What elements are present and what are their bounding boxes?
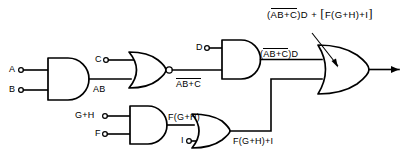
- input-label-a: A: [9, 65, 15, 74]
- wire-label-and3-output: F(G+H): [168, 113, 200, 122]
- or-gate-3[interactable]: [318, 45, 369, 94]
- final-expr-bracket-body: F(G+H)+I: [325, 10, 368, 20]
- and-gate-3[interactable]: [130, 106, 167, 144]
- input-terminal-gh[interactable]: [103, 114, 108, 119]
- final-expr-after-bar: )D: [297, 10, 308, 20]
- wire-label-and2-output: (AB+C)D: [260, 48, 298, 59]
- wire-label-nor1-output: AB+C: [176, 78, 201, 89]
- input-terminal-d[interactable]: [205, 46, 210, 51]
- nor-gate-1[interactable]: [129, 52, 166, 88]
- final-expr-bracket-close: ]: [368, 9, 373, 18]
- and-gate-1[interactable]: [48, 58, 89, 100]
- input-label-i: I: [181, 136, 184, 145]
- and-gate-2[interactable]: [222, 40, 260, 79]
- input-label-f: F: [95, 129, 101, 138]
- wire-label-ab: AB: [93, 85, 106, 94]
- input-label-c: C: [95, 55, 102, 64]
- final-expr-barred-term: AB+C: [271, 8, 298, 20]
- wire-label-nor1-output-bar: AB+C: [176, 78, 201, 89]
- wire-label-or2-output: F(G+H)+I: [233, 137, 273, 146]
- input-terminal-b[interactable]: [19, 88, 24, 93]
- final-expr-plus: +: [311, 10, 317, 20]
- and2-out-barred-term: AB+C: [263, 48, 288, 59]
- logic-circuit-diagram: (AB+C)D + [F(G+H)+I] A B C D G+H F I AB …: [0, 0, 415, 153]
- wire-or2-to-or3: [230, 79, 322, 131]
- final-output-expression: (AB+C)D + [F(G+H)+I]: [267, 8, 373, 20]
- input-terminal-i[interactable]: [187, 139, 192, 144]
- and2-out-close: )D: [288, 50, 298, 59]
- input-label-b: B: [9, 85, 15, 94]
- input-terminal-a[interactable]: [19, 68, 24, 73]
- nor-gate-1-inversion-bubble: [166, 67, 172, 73]
- final-output-arrowhead: [391, 66, 399, 73]
- input-label-gh: G+H: [75, 111, 95, 120]
- input-label-d: D: [196, 43, 203, 52]
- input-terminal-c[interactable]: [104, 58, 109, 63]
- input-terminal-f[interactable]: [103, 132, 108, 137]
- circuit-schematic-svg: [0, 0, 415, 153]
